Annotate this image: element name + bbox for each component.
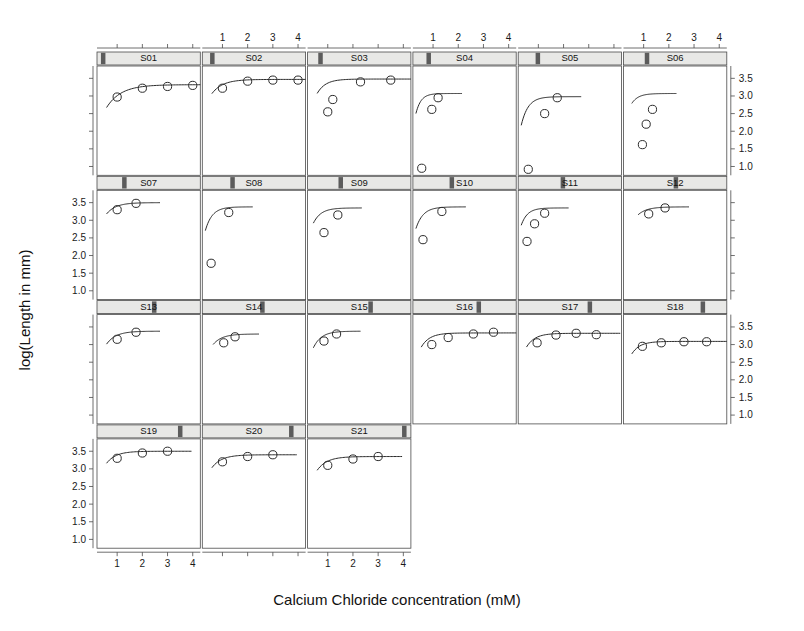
- x-tick-label: 4: [716, 32, 722, 43]
- x-tick-label: 2: [140, 558, 146, 569]
- data-point-s07-1: [113, 206, 121, 214]
- x-tick-label: 1: [114, 558, 120, 569]
- fit-curve-s03: [317, 79, 411, 93]
- strip-indicator-s04: [426, 53, 431, 64]
- strip-label-s05: S05: [561, 52, 578, 63]
- strip-label-s06: S06: [667, 52, 684, 63]
- panel-s14: S14: [202, 301, 305, 424]
- data-point-s11-3: [541, 209, 549, 217]
- panel-s11: S11: [518, 176, 621, 299]
- panel-s07: S07: [97, 176, 200, 299]
- data-point-s01-3: [163, 82, 171, 90]
- strip-label-s16: S16: [456, 301, 473, 312]
- y-axis-left-row3: 1.01.52.02.53.03.5: [72, 439, 93, 548]
- x-tick-label: 4: [190, 558, 196, 569]
- panel-s16: S16: [413, 301, 516, 424]
- x-axis-top-col5: 1234: [624, 32, 727, 48]
- strip-indicator-s10: [450, 177, 455, 188]
- y-tick-label: 2.5: [72, 481, 86, 492]
- panel-border-s02: [202, 66, 305, 175]
- data-point-s06-2: [642, 120, 650, 128]
- y-tick-label: 2.0: [739, 374, 753, 385]
- data-point-s21-1: [324, 461, 332, 469]
- y-tick-label: 2.0: [72, 499, 86, 510]
- x-tick-label: 1: [325, 558, 331, 569]
- x-tick-label: 3: [165, 558, 171, 569]
- fit-curve-s08: [205, 207, 252, 231]
- trellis-chart-figure: S01S02S03S04S05S06S07S08S09S10S11S12S13S…: [0, 0, 804, 631]
- panel-border-s09: [308, 190, 411, 299]
- x-tick-label: 4: [295, 32, 301, 43]
- x-tick-label: 2: [666, 32, 672, 43]
- data-point-s05-2: [541, 110, 549, 118]
- y-tick-label: 1.0: [72, 534, 86, 545]
- panel-s15: S15: [308, 301, 411, 424]
- y-tick-label: 1.5: [739, 392, 753, 403]
- y-tick-label: 3.5: [739, 321, 753, 332]
- y-tick-label: 3.0: [739, 90, 753, 101]
- panel-border-s11: [518, 190, 621, 299]
- data-point-s08-1: [207, 259, 215, 267]
- strip-indicator-s21: [402, 426, 407, 437]
- panels-group: S01S02S03S04S05S06S07S08S09S10S11S12S13S…: [97, 52, 727, 548]
- x-axis-bottom-col1: [202, 552, 305, 556]
- data-point-s02-4: [294, 76, 302, 84]
- strip-label-s20: S20: [245, 425, 262, 436]
- data-point-s05-1: [524, 165, 532, 173]
- strip-label-s08: S08: [245, 177, 262, 188]
- panel-border-s03: [308, 66, 411, 175]
- strip-indicator-s08: [230, 177, 235, 188]
- data-point-s14-1: [220, 339, 228, 347]
- panel-border-s06: [624, 66, 727, 175]
- panel-s04: S04: [413, 52, 516, 175]
- x-axis-bottom-col0: 1234: [97, 552, 200, 569]
- x-tick-label: 1: [430, 32, 436, 43]
- strip-label-s12: S12: [667, 177, 684, 188]
- data-point-s03-2: [329, 95, 337, 103]
- y-tick-label: 2.5: [739, 357, 753, 368]
- data-point-s16-1: [428, 340, 436, 348]
- strip-label-s04: S04: [456, 52, 473, 63]
- strip-label-s07: S07: [140, 177, 157, 188]
- panel-s19: S19: [97, 425, 200, 548]
- x-axis-top-col4: [518, 44, 621, 48]
- data-point-s18-2: [657, 339, 665, 347]
- fit-curve-s09: [313, 208, 361, 223]
- strip-indicator-s15: [368, 301, 373, 312]
- panel-s06: S06: [624, 52, 727, 175]
- data-point-s10-1: [419, 236, 427, 244]
- x-axis-bottom-col2: 1234: [308, 552, 411, 569]
- panel-border-s01: [97, 66, 200, 175]
- y-axis-left-row1: 1.01.52.02.53.03.5: [72, 190, 93, 299]
- x-tick-label: 3: [691, 32, 697, 43]
- panel-s01: S01: [97, 52, 200, 175]
- strip-indicator-s03: [318, 53, 323, 64]
- y-tick-label: 3.5: [739, 73, 753, 84]
- fit-curve-s11: [521, 208, 568, 225]
- x-axis-top-col3: 1234: [413, 32, 516, 48]
- data-point-s02-2: [244, 77, 252, 85]
- strip-label-s14: S14: [245, 301, 262, 312]
- strip-indicator-s20: [289, 426, 294, 437]
- y-tick-label: 1.5: [72, 268, 86, 279]
- y-tick-label: 3.0: [72, 463, 86, 474]
- strip-indicator-s16: [477, 301, 482, 312]
- data-point-s16-4: [489, 328, 497, 336]
- panel-s09: S09: [308, 176, 411, 299]
- strip-indicator-s06: [645, 53, 650, 64]
- panel-border-s08: [202, 190, 305, 299]
- strip-indicator-s18: [701, 301, 706, 312]
- y-axis-right-row0: 1.01.52.02.53.03.5: [731, 66, 753, 175]
- data-point-s17-4: [592, 331, 600, 339]
- x-tick-label: 3: [481, 32, 487, 43]
- panel-s18: S18: [624, 301, 727, 424]
- panel-s21: S21: [308, 425, 411, 548]
- x-axis-top-col0: [97, 44, 200, 48]
- y-tick-label: 3.5: [72, 197, 86, 208]
- y-axis-left-row0: [89, 66, 93, 175]
- strip-label-s09: S09: [351, 177, 368, 188]
- panel-s05: S05: [518, 52, 621, 175]
- fit-curve-s01: [107, 85, 201, 108]
- panel-s13: S13: [97, 301, 200, 424]
- data-point-s14-2: [231, 333, 239, 341]
